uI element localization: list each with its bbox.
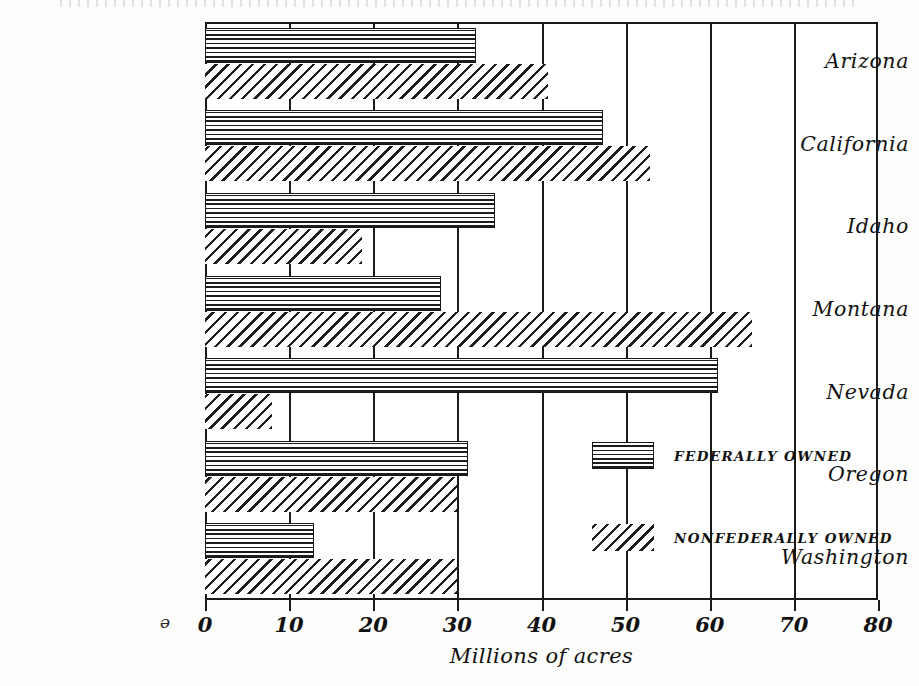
x-tick-label-40: 40 <box>512 612 572 637</box>
x-axis-title: Millions of acres <box>205 644 878 668</box>
x-tick-30 <box>457 600 459 611</box>
bar-nonfederally-owned-california <box>205 146 650 181</box>
legend-label-nonfederally-owned: NONFEDERALLY OWNED <box>674 530 893 546</box>
legend-item-federally-owned: FEDERALLY OWNED <box>592 442 852 469</box>
legend-swatch-federally-owned <box>592 442 654 469</box>
x-tick-10 <box>289 600 291 611</box>
bar-nonfederally-owned-washington <box>205 559 457 594</box>
bar-nonfederally-owned-oregon <box>205 477 457 512</box>
x-tick-80 <box>878 600 880 611</box>
bar-federally-owned-washington <box>205 523 314 558</box>
x-tick-label-70: 70 <box>764 612 824 637</box>
bar-federally-owned-california <box>205 110 603 145</box>
corner-mark-glyph: ə <box>160 612 170 632</box>
bar-nonfederally-owned-idaho <box>205 229 362 264</box>
x-tick-50 <box>626 600 628 611</box>
bar-federally-owned-idaho <box>205 193 495 228</box>
x-tick-40 <box>542 600 544 611</box>
category-label-nevada: Nevada <box>724 380 919 404</box>
category-label-idaho: Idaho <box>724 214 919 238</box>
scan-artifact-top-edge <box>60 0 860 7</box>
category-label-arizona: Arizona <box>724 49 919 73</box>
x-tick-label-0: 0 <box>175 612 235 637</box>
legend-item-nonfederally-owned: NONFEDERALLY OWNED <box>592 524 893 551</box>
bar-nonfederally-owned-arizona <box>205 64 548 99</box>
figure-bar-chart-land-ownership: ArizonaCaliforniaIdahoMontanaNevadaOrego… <box>0 0 919 686</box>
category-label-montana: Montana <box>724 297 919 321</box>
legend-swatch-nonfederally-owned <box>592 524 654 551</box>
x-tick-label-30: 30 <box>427 612 487 637</box>
x-tick-60 <box>710 600 712 611</box>
x-tick-label-80: 80 <box>848 612 908 637</box>
x-tick-label-10: 10 <box>259 612 319 637</box>
bar-federally-owned-arizona <box>205 28 476 63</box>
category-label-california: California <box>724 132 919 156</box>
x-tick-0 <box>205 600 207 611</box>
bar-nonfederally-owned-montana <box>205 312 752 347</box>
x-tick-label-20: 20 <box>343 612 403 637</box>
bar-nonfederally-owned-nevada <box>205 394 272 429</box>
x-tick-label-50: 50 <box>596 612 656 637</box>
bar-federally-owned-oregon <box>205 441 468 476</box>
x-tick-70 <box>794 600 796 611</box>
x-tick-20 <box>373 600 375 611</box>
bar-federally-owned-montana <box>205 276 441 311</box>
x-tick-label-60: 60 <box>680 612 740 637</box>
bar-federally-owned-nevada <box>205 358 718 393</box>
legend-label-federally-owned: FEDERALLY OWNED <box>674 448 852 464</box>
